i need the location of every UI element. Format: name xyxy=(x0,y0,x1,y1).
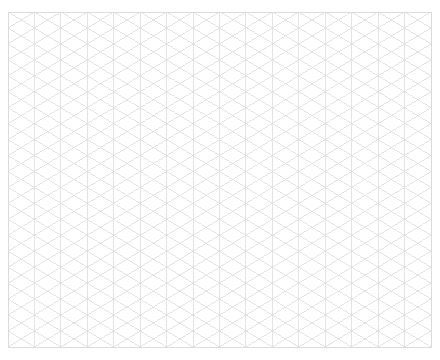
graph-paper-page xyxy=(0,0,440,360)
isometric-grid-canvas xyxy=(0,0,440,360)
isometric-grid-sheet xyxy=(0,0,440,360)
page-background xyxy=(0,0,440,360)
